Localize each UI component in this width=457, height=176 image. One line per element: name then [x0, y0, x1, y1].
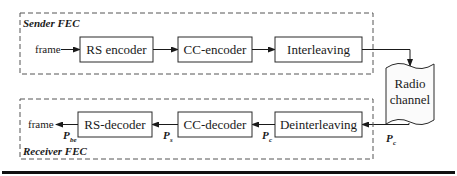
radio-channel-line2: channel: [390, 92, 431, 107]
receiver-fec-title: Receiver FEC: [22, 145, 88, 157]
sender-fec-group: Sender FEC frame RS encoder CC-encoder I…: [20, 13, 373, 74]
receiver-frame-label: frame: [28, 118, 54, 130]
interleaving-label: Interleaving: [287, 42, 350, 57]
cc-out-prob-sub: s: [169, 136, 173, 144]
channel-out-prob-sub: c: [393, 139, 396, 147]
deinterleaving-label: Deinterleaving: [280, 117, 358, 132]
radio-channel: Radio channel: [386, 63, 434, 124]
rs-encoder-label: RS encoder: [86, 42, 147, 57]
bottom-rule: [2, 171, 455, 174]
deint-out-prob-sub: c: [269, 136, 272, 144]
deint-out-prob-symbol: P: [262, 129, 269, 141]
rs-decoder-label: RS-decoder: [84, 117, 146, 132]
rs-out-prob-symbol: P: [63, 129, 70, 141]
channel-out-prob-symbol: P: [386, 132, 393, 144]
receiver-fec-group: Receiver FEC Deinterleaving P c CC-decod…: [20, 99, 373, 159]
cc-encoder-label: CC-encoder: [184, 42, 247, 57]
cc-out-prob-symbol: P: [163, 129, 170, 141]
rs-out-prob-sub: be: [70, 136, 77, 144]
cc-decoder-label: CC-decoder: [184, 117, 247, 132]
sender-frame-label: frame: [35, 43, 61, 55]
fec-diagram: Sender FEC frame RS encoder CC-encoder I…: [0, 0, 457, 176]
radio-channel-line1: Radio: [394, 76, 425, 91]
sender-fec-title: Sender FEC: [23, 17, 80, 29]
